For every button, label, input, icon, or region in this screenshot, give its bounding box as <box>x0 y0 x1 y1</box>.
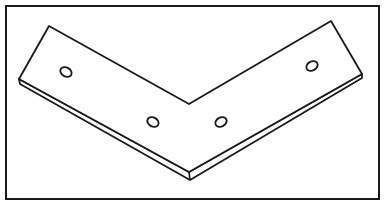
bracket-top-face <box>19 21 362 172</box>
bracket-corner-edge <box>189 172 190 180</box>
bracket-diagram <box>0 0 385 203</box>
bracket-drawing <box>0 0 385 203</box>
